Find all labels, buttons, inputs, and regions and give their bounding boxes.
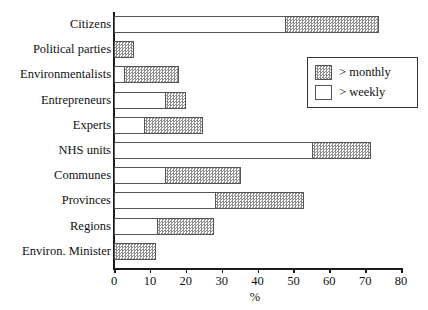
x-tick-label: 40 (238, 274, 278, 289)
stacked-bar (114, 192, 304, 209)
bar-segment-monthly (215, 193, 303, 208)
legend-label-weekly: > weekly (339, 85, 385, 100)
bar-segment-monthly (124, 67, 178, 82)
x-tick-label: 30 (202, 274, 242, 289)
x-tick-label: 60 (309, 274, 349, 289)
x-tick (150, 268, 152, 273)
bar-segment-monthly (115, 42, 133, 57)
stacked-bar (114, 92, 186, 109)
category-label: Experts (3, 117, 111, 134)
category-label: Environmentalists (3, 66, 111, 83)
chart-legend: > monthly > weekly (307, 57, 418, 108)
bar-segment-weekly (115, 168, 165, 183)
stacked-bar (114, 218, 214, 235)
x-tick (293, 268, 295, 273)
x-axis-title: % (0, 290, 428, 305)
legend-label-monthly: > monthly (339, 65, 391, 80)
bar-segment-weekly (115, 93, 165, 108)
x-tick-label: 20 (166, 274, 206, 289)
bar-segment-weekly (115, 143, 312, 158)
x-tick-label: 0 (94, 274, 134, 289)
stacked-bar (114, 66, 179, 83)
x-tick (329, 268, 331, 273)
category-label: Communes (3, 167, 111, 184)
x-tick-label: 70 (345, 274, 385, 289)
bar-segment-weekly (115, 118, 144, 133)
x-tick-label: 80 (381, 274, 421, 289)
x-tick (222, 268, 224, 273)
x-tick-label: 10 (130, 274, 170, 289)
stacked-bar (114, 41, 134, 58)
x-tick-label: 50 (273, 274, 313, 289)
bar-segment-monthly (165, 93, 185, 108)
legend-swatch-monthly-icon (315, 65, 332, 80)
stacked-bar (114, 167, 241, 184)
bar-chart: CitizensPolitical partiesEnvironmentalis… (0, 0, 428, 310)
category-label: Citizens (3, 16, 111, 33)
x-tick (365, 268, 367, 273)
bar-segment-weekly (115, 193, 215, 208)
x-axis-title-text: % (250, 290, 260, 304)
category-label: Regions (3, 218, 111, 235)
category-label: Environ. Minister (3, 243, 111, 260)
x-tick (401, 268, 403, 273)
legend-item-monthly: > monthly (315, 64, 391, 81)
x-tick (186, 268, 188, 273)
legend-item-weekly: > weekly (315, 84, 385, 101)
bar-segment-monthly (144, 118, 201, 133)
category-label: NHS units (3, 142, 111, 159)
bar-segment-weekly (115, 219, 157, 234)
bar-segment-monthly (115, 244, 155, 259)
category-label: Entrepreneurs (3, 92, 111, 109)
x-tick (258, 268, 260, 273)
stacked-bar (114, 117, 203, 134)
bar-segment-monthly (312, 143, 370, 158)
bar-segment-monthly (285, 17, 378, 32)
legend-swatch-weekly-icon (315, 85, 332, 100)
stacked-bar (114, 142, 371, 159)
bar-segment-weekly (115, 67, 124, 82)
stacked-bar (114, 16, 379, 33)
x-tick (114, 268, 116, 273)
bar-segment-monthly (165, 168, 241, 183)
bar-segment-monthly (157, 219, 214, 234)
category-label: Political parties (3, 41, 111, 58)
stacked-bar (114, 243, 156, 260)
bar-segment-weekly (115, 17, 285, 32)
category-label: Provinces (3, 192, 111, 209)
